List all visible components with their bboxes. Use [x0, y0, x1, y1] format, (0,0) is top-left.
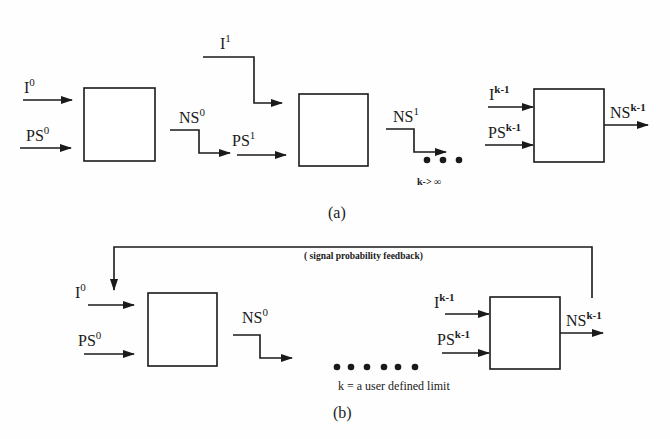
- ns1-arrow: [386, 129, 446, 152]
- figure-b: ( signal probability feedback) I0 PS0 NS…: [75, 247, 603, 422]
- limit-note-a: k-> ∞: [417, 176, 441, 187]
- ns0-arrow: [233, 335, 292, 358]
- caption-a: (a): [328, 204, 346, 222]
- ns1-label: NS1: [393, 105, 419, 125]
- i1-arrow: [203, 57, 282, 103]
- stage-0-block: [84, 88, 155, 161]
- ps0-label: PS0: [26, 124, 50, 144]
- state-unrolling-diagram: I0 PS0 NS0 PS1 I1 NS1 k-> ∞ Ik-1 PSk-1 N…: [0, 0, 670, 439]
- nsk1-label: NSk-1: [566, 309, 602, 329]
- stage-k-1-block: [490, 297, 560, 369]
- limit-note-b: k = a user defined limit: [338, 379, 450, 393]
- ellipsis-dots: [424, 157, 463, 164]
- ik1-label: Ik-1: [434, 291, 455, 311]
- ps0-label: PS0: [78, 329, 102, 349]
- stage-0-block: [148, 293, 217, 366]
- nsk1-label: NSk-1: [610, 101, 646, 121]
- feedback-label: ( signal probability feedback): [304, 251, 423, 262]
- i0-label: I0: [75, 281, 86, 301]
- i1-label: I1: [220, 32, 231, 52]
- ellipsis-dots: [334, 364, 419, 371]
- caption-b: (b): [333, 404, 352, 422]
- stage-1-block: [299, 94, 368, 166]
- psk1-label: PSk-1: [488, 121, 521, 141]
- ns0-arrow: [170, 130, 230, 153]
- psk1-label: PSk-1: [437, 328, 470, 348]
- figure-a: I0 PS0 NS0 PS1 I1 NS1 k-> ∞ Ik-1 PSk-1 N…: [20, 32, 648, 222]
- ik1-label: Ik-1: [489, 83, 510, 103]
- ps1-label: PS1: [232, 129, 255, 149]
- ns0-label: NS0: [179, 106, 205, 126]
- ns0-label: NS0: [242, 306, 268, 326]
- stage-k-1-block: [534, 89, 604, 162]
- i0-label: I0: [24, 76, 35, 96]
